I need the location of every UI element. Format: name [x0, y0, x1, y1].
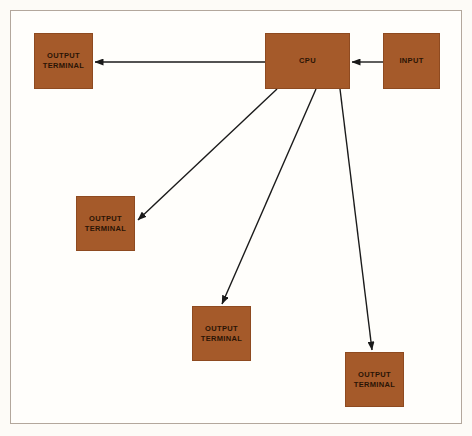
- node-label: OUTPUT TERMINAL: [43, 51, 85, 71]
- diagram-canvas: OUTPUT TERMINAL CPU INPUT OUTPUT TERMINA…: [0, 0, 472, 436]
- arrow-cpu-to-output-center: [222, 89, 316, 304]
- node-input[interactable]: INPUT: [383, 33, 440, 89]
- node-label: INPUT: [399, 56, 423, 66]
- arrow-cpu-to-output-right: [340, 89, 372, 350]
- node-output-terminal-left[interactable]: OUTPUT TERMINAL: [76, 196, 135, 251]
- node-output-terminal-center[interactable]: OUTPUT TERMINAL: [192, 306, 251, 361]
- node-output-terminal-right[interactable]: OUTPUT TERMINAL: [345, 352, 404, 407]
- node-label: OUTPUT TERMINAL: [354, 370, 396, 390]
- node-output-terminal-top-left[interactable]: OUTPUT TERMINAL: [34, 33, 93, 89]
- arrow-cpu-to-output-left: [138, 89, 277, 220]
- node-label: CPU: [299, 56, 316, 66]
- node-cpu[interactable]: CPU: [265, 33, 350, 89]
- node-label: OUTPUT TERMINAL: [201, 324, 243, 344]
- node-label: OUTPUT TERMINAL: [85, 214, 127, 234]
